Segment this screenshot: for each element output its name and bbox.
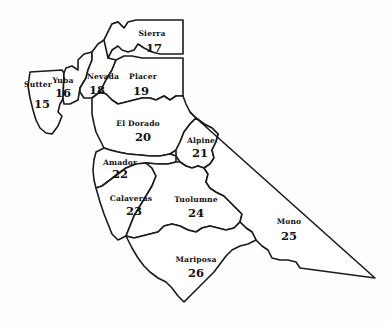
county-number-label: 17 [146, 41, 162, 55]
county-number-label: 24 [188, 206, 204, 220]
county-region-sierra[interactable] [104, 20, 183, 58]
county-number-label: 19 [133, 84, 149, 98]
county-number-label: 22 [112, 167, 128, 181]
county-name-label: Mono [277, 217, 302, 226]
county-name-label: Nevada [87, 72, 119, 81]
county-name-label: Placer [129, 72, 158, 81]
county-map-svg: Sutter15Yuba16Nevada18Sierra17Placer19El… [0, 0, 390, 326]
county-number-label: 21 [192, 146, 208, 160]
map-container: Sutter15Yuba16Nevada18Sierra17Placer19El… [0, 0, 390, 326]
county-name-label: Alpine [186, 136, 215, 145]
county-name-label: Sierra [138, 29, 165, 38]
county-number-label: 18 [89, 83, 105, 97]
county-name-label: Sutter [24, 80, 53, 89]
county-number-label: 26 [188, 266, 204, 280]
county-number-label: 20 [135, 130, 151, 144]
county-name-label: Amador [102, 158, 138, 167]
county-number-label: 16 [55, 86, 71, 100]
county-number-label: 15 [34, 97, 50, 111]
county-name-label: Mariposa [176, 255, 217, 264]
county-name-label: Yuba [51, 76, 73, 85]
county-number-label: 23 [126, 204, 142, 218]
county-name-label: El Dorado [116, 119, 160, 128]
county-number-label: 25 [281, 229, 297, 243]
county-name-label: Tuolumne [174, 195, 218, 204]
county-name-label: Calaveras [110, 194, 153, 203]
